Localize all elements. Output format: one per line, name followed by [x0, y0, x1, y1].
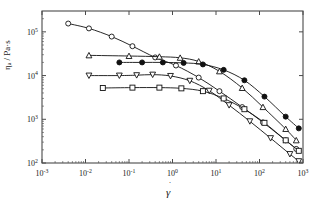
x-axis-label: ˙ γ — [166, 186, 170, 198]
y-axis-label: ηa / Pa·s — [2, 40, 12, 70]
data-point-filled-circle — [200, 62, 205, 67]
data-point-open-circle — [196, 75, 201, 80]
data-point-open-square — [262, 120, 267, 125]
data-point-open-square — [200, 89, 205, 94]
y-axis-subscript: a — [6, 63, 12, 65]
data-point-open-square — [283, 138, 288, 143]
data-point-open-square — [242, 107, 247, 112]
data-point-filled-circle — [262, 94, 267, 99]
rheology-chart-figure: 10-310-210-1100101102103102103104105 ηa … — [0, 0, 322, 208]
data-point-open-square — [179, 86, 184, 91]
data-point-filled-circle — [181, 60, 186, 65]
data-point-open-circle — [130, 44, 135, 49]
data-point-open-square — [157, 85, 162, 90]
data-point-filled-circle — [221, 67, 226, 72]
chart-canvas: 10-310-210-1100101102103102103104105 — [0, 0, 322, 208]
data-point-open-square — [221, 96, 226, 101]
data-point-filled-circle — [117, 60, 122, 65]
y-axis-unit: / Pa·s — [2, 40, 12, 60]
gamma-dot-accent-icon: ˙ — [169, 180, 172, 190]
data-point-filled-circle — [140, 60, 145, 65]
data-point-open-circle — [109, 34, 114, 39]
data-point-open-circle — [66, 21, 71, 26]
data-point-open-square — [100, 85, 105, 90]
data-point-open-circle — [86, 26, 91, 31]
data-point-filled-circle — [283, 114, 288, 119]
data-point-open-circle — [173, 63, 178, 68]
data-point-open-square — [296, 148, 301, 153]
data-point-filled-circle — [160, 60, 165, 65]
chart-background — [0, 0, 322, 208]
data-point-open-square — [130, 85, 135, 90]
data-point-filled-circle — [296, 126, 301, 131]
data-point-open-circle — [217, 89, 222, 94]
data-point-filled-circle — [242, 78, 247, 83]
y-axis-symbol: η — [2, 65, 12, 70]
